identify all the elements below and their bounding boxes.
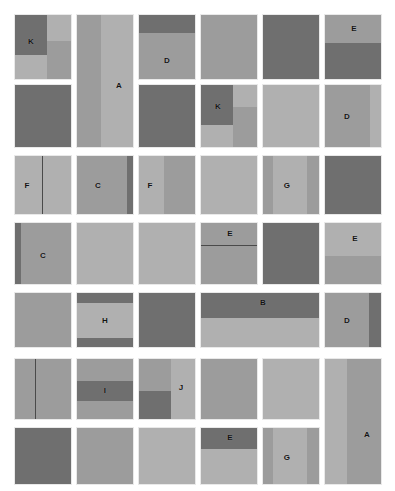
tile-region xyxy=(201,428,258,449)
tile-region xyxy=(201,318,320,348)
rectangle-tile[interactable] xyxy=(200,14,258,80)
tile-region xyxy=(263,156,273,215)
tile-region xyxy=(139,156,164,215)
rectangle-tile[interactable]: G xyxy=(262,155,320,215)
rectangle-tile[interactable] xyxy=(138,84,196,148)
tile-region xyxy=(15,293,72,348)
rectangle-tile[interactable]: G xyxy=(262,427,320,485)
tile-region xyxy=(77,303,134,338)
tile-region xyxy=(77,428,134,485)
rectangle-tile[interactable]: A xyxy=(76,14,134,148)
tile-region xyxy=(15,156,42,215)
tile-region xyxy=(101,15,134,148)
rectangle-tile[interactable]: B xyxy=(200,292,320,348)
tile-region xyxy=(139,15,196,33)
tile-region xyxy=(325,293,369,348)
tile-region xyxy=(77,381,134,401)
rectangle-tile[interactable] xyxy=(14,358,72,420)
tile-region xyxy=(77,15,101,148)
rectangle-tile[interactable]: E xyxy=(200,427,258,485)
rectangle-tile[interactable] xyxy=(200,358,258,420)
rectangle-tile[interactable] xyxy=(138,427,196,485)
tile-region xyxy=(263,15,320,80)
rectangle-tile[interactable] xyxy=(262,222,320,285)
tile-region xyxy=(47,15,72,41)
rectangle-tile[interactable] xyxy=(324,155,382,215)
rectangle-tile[interactable]: D xyxy=(324,292,382,348)
tile-region xyxy=(77,223,134,285)
tile-region xyxy=(369,293,382,348)
tile-region xyxy=(21,223,72,285)
tile-region xyxy=(325,85,370,148)
tile-region xyxy=(139,33,196,80)
tile-region xyxy=(273,156,307,215)
tile-region xyxy=(139,428,196,485)
rectangle-tile[interactable] xyxy=(262,14,320,80)
tile-region xyxy=(201,359,258,420)
tile-divider-line xyxy=(201,245,258,246)
tile-region xyxy=(47,41,72,80)
tile-region xyxy=(201,15,258,80)
rectangle-tile[interactable] xyxy=(14,292,72,348)
tile-region xyxy=(201,223,258,245)
tile-region xyxy=(35,359,72,420)
tile-region xyxy=(139,85,196,148)
tile-region xyxy=(77,338,134,348)
tile-region xyxy=(263,359,320,420)
tile-region xyxy=(77,293,134,303)
tile-divider-line xyxy=(42,156,43,215)
rectangle-tile[interactable]: K xyxy=(200,84,258,148)
rectangle-tile[interactable]: C xyxy=(14,222,72,285)
rectangle-tile[interactable]: K xyxy=(14,14,72,80)
tile-region xyxy=(77,359,134,381)
rectangle-tile[interactable]: E xyxy=(200,222,258,285)
tile-region xyxy=(77,401,134,420)
rectangle-tile[interactable] xyxy=(262,84,320,148)
tile-region xyxy=(325,15,382,43)
rectangle-tile[interactable]: E xyxy=(324,14,382,80)
rectangle-tile[interactable]: H xyxy=(76,292,134,348)
rectangle-tile[interactable]: D xyxy=(138,14,196,80)
tile-region xyxy=(233,85,258,107)
rectangle-tile[interactable] xyxy=(200,155,258,215)
tile-region xyxy=(139,223,196,285)
tile-region xyxy=(15,55,47,80)
rectangle-tile[interactable] xyxy=(262,358,320,420)
tile-region xyxy=(233,107,258,148)
tile-region xyxy=(171,359,196,420)
rectangle-tile[interactable]: A xyxy=(324,358,382,485)
rectangle-tile[interactable]: F xyxy=(138,155,196,215)
rectangle-tile[interactable]: D xyxy=(324,84,382,148)
tile-region xyxy=(263,223,320,285)
tile-region xyxy=(325,223,382,256)
tile-region xyxy=(325,43,382,80)
tile-region xyxy=(201,125,233,148)
tile-region xyxy=(201,85,233,125)
rectangle-tile[interactable] xyxy=(138,292,196,348)
tile-region xyxy=(15,85,72,148)
tile-region xyxy=(325,156,382,215)
tile-region xyxy=(201,156,258,215)
rectangle-tile[interactable]: J xyxy=(138,358,196,420)
tile-region xyxy=(307,428,320,485)
rectangle-tile[interactable] xyxy=(76,427,134,485)
tile-region xyxy=(164,156,196,215)
tile-region xyxy=(307,156,320,215)
tile-region xyxy=(127,156,134,215)
tile-region xyxy=(201,449,258,485)
rectangle-tile[interactable] xyxy=(138,222,196,285)
tile-divider-line xyxy=(35,359,36,420)
tile-region xyxy=(77,156,127,215)
tile-region xyxy=(370,85,382,148)
rectangle-tile[interactable]: F xyxy=(14,155,72,215)
tile-region xyxy=(325,256,382,285)
rectangle-tile[interactable] xyxy=(76,222,134,285)
tile-region xyxy=(15,359,35,420)
rectangle-tile[interactable]: I xyxy=(76,358,134,420)
tile-region xyxy=(139,293,196,348)
rectangle-tile[interactable] xyxy=(14,84,72,148)
rectangle-tile[interactable]: E xyxy=(324,222,382,285)
tile-region xyxy=(273,428,307,485)
rectangle-tile[interactable] xyxy=(14,427,72,485)
rectangle-tile[interactable]: C xyxy=(76,155,134,215)
